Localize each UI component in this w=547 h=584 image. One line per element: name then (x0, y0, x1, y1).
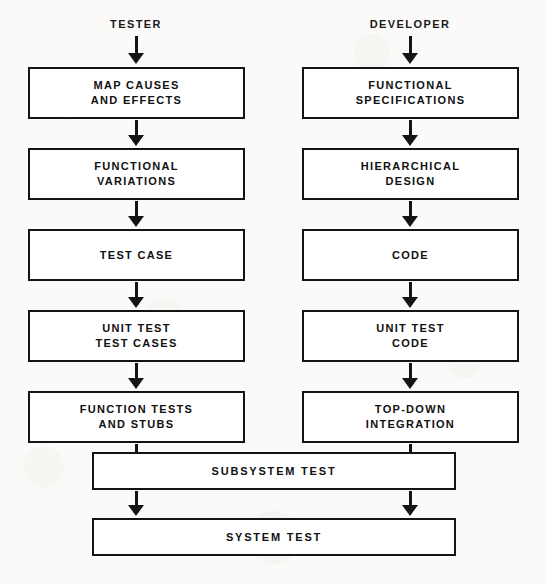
arrow-down-icon (400, 120, 420, 146)
arrow-down-icon (400, 282, 420, 308)
node-tester-step-1[interactable]: MAP CAUSES AND EFFECTS (28, 67, 245, 119)
arrow-down-icon (126, 491, 146, 516)
arrow-down-icon (126, 363, 146, 389)
node-tester-step-5[interactable]: FUNCTION TESTS AND STUBS (28, 391, 245, 443)
node-system-test[interactable]: SYSTEM TEST (92, 518, 456, 556)
node-developer-step-1[interactable]: FUNCTIONAL SPECIFICATIONS (302, 67, 519, 119)
node-developer-step-4[interactable]: UNIT TEST CODE (302, 310, 519, 362)
arrow-down-icon (400, 363, 420, 389)
node-developer-step-3[interactable]: CODE (302, 229, 519, 281)
flowchart-diagram: TESTER DEVELOPER MAP CAUSES AND EFFECTS … (0, 0, 547, 584)
column-header-tester: TESTER (110, 18, 162, 30)
node-tester-step-4[interactable]: UNIT TEST TEST CASES (28, 310, 245, 362)
node-label: UNIT TEST CODE (376, 321, 445, 351)
node-label: HIERARCHICAL DESIGN (361, 159, 460, 189)
node-label: UNIT TEST TEST CASES (95, 321, 177, 351)
arrow-down-icon (126, 282, 146, 308)
node-label: FUNCTIONAL VARIATIONS (94, 159, 179, 189)
arrow-down-icon (400, 36, 420, 64)
node-label: FUNCTION TESTS AND STUBS (80, 402, 194, 432)
node-label: TOP-DOWN INTEGRATION (366, 402, 455, 432)
node-label: SUBSYSTEM TEST (212, 464, 337, 479)
arrow-down-icon (400, 491, 420, 516)
arrow-down-icon (126, 36, 146, 64)
node-label: MAP CAUSES AND EFFECTS (91, 78, 182, 108)
node-developer-step-2[interactable]: HIERARCHICAL DESIGN (302, 148, 519, 200)
node-developer-step-5[interactable]: TOP-DOWN INTEGRATION (302, 391, 519, 443)
arrow-down-icon (126, 120, 146, 146)
node-tester-step-3[interactable]: TEST CASE (28, 229, 245, 281)
arrow-down-icon (400, 201, 420, 227)
node-label: FUNCTIONAL SPECIFICATIONS (356, 78, 466, 108)
column-header-developer: DEVELOPER (370, 18, 450, 30)
node-subsystem-test[interactable]: SUBSYSTEM TEST (92, 452, 456, 490)
node-tester-step-2[interactable]: FUNCTIONAL VARIATIONS (28, 148, 245, 200)
node-label: CODE (392, 248, 429, 263)
node-label: SYSTEM TEST (226, 530, 322, 545)
arrow-down-icon (126, 201, 146, 227)
node-label: TEST CASE (100, 248, 173, 263)
